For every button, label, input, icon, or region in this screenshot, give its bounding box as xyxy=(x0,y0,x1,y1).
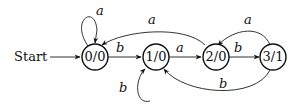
state-s1: 1/0 xyxy=(143,44,169,70)
edge-label-s0-s1: b xyxy=(116,40,124,55)
edge-s1-s1 xyxy=(138,69,150,101)
edge-label-s3-s1: b xyxy=(219,76,227,91)
state-label-s2: 2/0 xyxy=(206,49,227,64)
state-s0: 0/0 xyxy=(82,44,108,70)
edge-label-s1-s2: a xyxy=(176,40,184,55)
state-s2: 2/0 xyxy=(203,44,229,70)
state-label-s3: 3/1 xyxy=(263,49,284,64)
start-label: Start xyxy=(14,49,48,64)
edge-label-s0-s0: a xyxy=(96,3,104,18)
edge-label-s2-s0: a xyxy=(148,12,156,27)
edge-label-s1-s1: b xyxy=(119,80,127,95)
state-label-s0: 0/0 xyxy=(85,49,106,64)
edge-label-s2-s3: b xyxy=(234,40,242,55)
state-label-s1: 1/0 xyxy=(146,49,167,64)
edge-label-s3-s2: a xyxy=(244,12,252,27)
edge-s0-s0 xyxy=(82,17,97,46)
state-s3: 3/1 xyxy=(260,44,286,70)
edge-s3-s2 xyxy=(218,31,270,45)
edge-s3-s1 xyxy=(164,69,270,91)
fsm-diagram: Start a b b a a b a b 0/0 1/0 2/0 3/1 xyxy=(0,0,300,107)
